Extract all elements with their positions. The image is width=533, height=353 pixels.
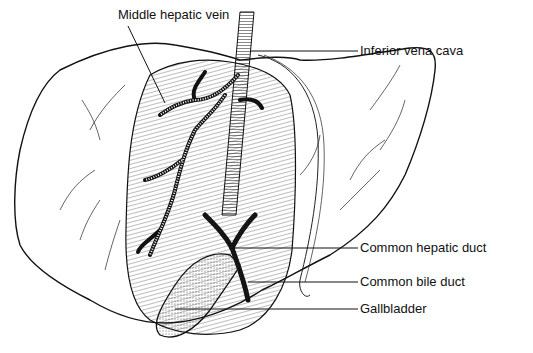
label-inferior-vena-cava: Inferior vena cava <box>360 43 463 58</box>
liver-anatomy-diagram: Middle hepatic vein Inferior vena cava C… <box>0 0 533 353</box>
label-common-hepatic-duct: Common hepatic duct <box>360 240 486 255</box>
label-middle-hepatic-vein: Middle hepatic vein <box>118 7 229 22</box>
label-common-bile-duct: Common bile duct <box>360 274 465 289</box>
label-gallbladder: Gallbladder <box>360 301 427 316</box>
